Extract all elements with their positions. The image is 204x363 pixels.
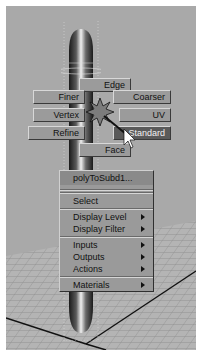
star-cursor-icon (84, 96, 144, 156)
separator (60, 236, 153, 238)
menu-item-display-filter[interactable]: Display Filter (60, 223, 153, 235)
menu-item-materials[interactable]: Materials (60, 279, 153, 291)
label: Outputs (73, 252, 105, 262)
label: Select (73, 196, 98, 206)
separator (60, 192, 153, 194)
label: Materials (73, 280, 110, 290)
menu-item-outputs[interactable]: Outputs (60, 251, 153, 263)
submenu-arrow-icon (141, 214, 145, 220)
menu-item-select[interactable]: Select (60, 195, 153, 207)
marking-menu-finer[interactable]: Finer (33, 90, 85, 104)
submenu-arrow-icon (141, 242, 145, 248)
submenu-arrow-icon (141, 282, 145, 288)
mouse-pointer-icon (124, 129, 135, 148)
marking-menu-vertex[interactable]: Vertex (33, 108, 85, 122)
menu-item-actions[interactable]: Actions (60, 263, 153, 275)
label: Inputs (73, 240, 98, 250)
context-menu: polyToSubd1... Select Display Level Disp… (59, 170, 154, 292)
menu-item-display-level[interactable]: Display Level (60, 211, 153, 223)
separator (60, 189, 153, 191)
label: Display Filter (73, 224, 125, 234)
label: Display Level (73, 212, 127, 222)
label: Actions (73, 264, 103, 274)
submenu-arrow-icon (141, 226, 145, 232)
submenu-arrow-icon (141, 254, 145, 260)
separator (60, 276, 153, 278)
menu-item-inputs[interactable]: Inputs (60, 239, 153, 251)
submenu-arrow-icon (141, 266, 145, 272)
3d-viewport[interactable]: Edge Finer Coarser Vertex UV Refine Stan… (6, 6, 196, 350)
marking-menu-refine[interactable]: Refine (28, 126, 85, 140)
menu-title-polytosubd[interactable]: polyToSubd1... (60, 171, 153, 185)
separator (60, 208, 153, 210)
